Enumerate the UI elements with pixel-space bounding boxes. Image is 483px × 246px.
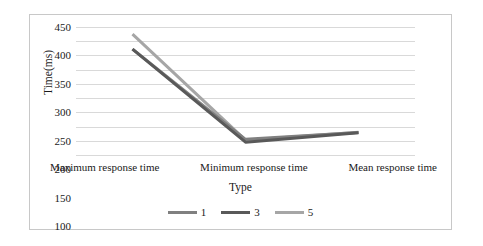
legend-label-3: 3 (254, 207, 260, 218)
legend-swatch-icon-1 (168, 211, 197, 214)
y-tick-label: 150 (55, 192, 72, 203)
gridline: 0 (76, 155, 415, 156)
y-axis-title: Time(ms) (42, 50, 54, 95)
y-tick-label: 450 (55, 22, 72, 33)
chart-legend: 1 3 5 (30, 207, 451, 218)
legend-item-5[interactable]: 5 (275, 207, 314, 218)
x-axis-tick-labels: Maximum response time Minimum response t… (76, 161, 415, 173)
x-tick-label-mean: Mean response time (348, 161, 437, 173)
series-line-3 (133, 49, 359, 142)
series-line-1 (133, 49, 359, 139)
x-tick-label-maximum: Maximum response time (50, 161, 159, 173)
y-tick-label: 100 (55, 221, 72, 232)
legend-label-1: 1 (201, 207, 207, 218)
y-tick-label: 250 (55, 135, 72, 146)
y-tick-label: 400 (55, 50, 72, 61)
y-tick-label: 300 (55, 107, 72, 118)
legend-item-3[interactable]: 3 (221, 207, 260, 218)
chart-figure: Time(ms) 450400350300250200150100500 Max… (29, 14, 452, 230)
legend-label-5: 5 (308, 207, 314, 218)
plot-area: 450400350300250200150100500 (76, 27, 415, 155)
x-axis-title: Type (30, 181, 451, 193)
series-lines (76, 27, 415, 155)
series-line-5 (133, 34, 359, 140)
legend-swatch-icon-3 (221, 211, 250, 214)
x-tick-label-minimum: Minimum response time (200, 161, 308, 173)
legend-swatch-icon-5 (275, 211, 304, 214)
y-tick-label: 350 (55, 78, 72, 89)
legend-item-1[interactable]: 1 (168, 207, 207, 218)
